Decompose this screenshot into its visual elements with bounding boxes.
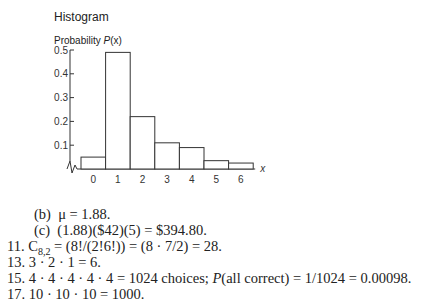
y-tick-label: 0.1 xyxy=(54,140,68,151)
answer-13-text: 3 · 2 · 1 = 6. xyxy=(29,254,101,270)
histogram-chart: 0.10.20.30.40.50123456x xyxy=(0,0,422,200)
y-tick-label: 0.4 xyxy=(54,68,68,79)
answer-c: (c) (1.88)($42)(5) = $394.80. xyxy=(34,222,207,239)
axis-break-icon xyxy=(67,161,77,173)
x-tick-label: 2 xyxy=(140,174,146,185)
x-tick-label: 5 xyxy=(214,174,220,185)
histogram-bar xyxy=(106,52,131,169)
answer-15-text-b: (all correct) = 1/1024 = 0.00098. xyxy=(221,270,411,286)
answer-15-num: 15. xyxy=(7,270,25,286)
answer-17-text: 10 · 10 · 10 = 1000. xyxy=(29,286,145,302)
answer-11-text: = (8!/(2!6!)) = (8 · 7/2) = 28. xyxy=(50,238,222,254)
answer-15: 15. 4 · 4 · 4 · 4 · 4 = 1024 choices; P(… xyxy=(7,270,411,287)
histogram-bar xyxy=(179,148,204,169)
x-tick-label: 0 xyxy=(91,174,97,185)
histogram-bar xyxy=(81,157,106,169)
histogram-bar xyxy=(130,117,155,169)
answer-b-text: μ = 1.88. xyxy=(58,206,110,222)
answer-15-text-a: 4 · 4 · 4 · 4 · 4 = 1024 choices; xyxy=(29,270,213,286)
histogram-bar xyxy=(204,161,229,169)
answer-b: (b) μ = 1.88. xyxy=(34,206,110,223)
histogram-bar xyxy=(155,143,180,169)
y-tick-label: 0.5 xyxy=(54,45,68,56)
x-tick-label: 1 xyxy=(115,174,121,185)
answer-17-num: 17. xyxy=(7,286,25,302)
y-tick-label: 0.2 xyxy=(54,116,68,127)
x-axis-label: x xyxy=(259,163,266,174)
answer-13: 13. 3 · 2 · 1 = 6. xyxy=(7,254,101,271)
answer-13-num: 13. xyxy=(7,254,25,270)
y-tick-label: 0.3 xyxy=(54,92,68,103)
histogram-bar xyxy=(229,163,254,169)
answer-b-label: (b) xyxy=(34,206,51,222)
x-tick-label: 3 xyxy=(164,174,170,185)
x-tick-label: 6 xyxy=(238,174,244,185)
answer-11-num: 11. xyxy=(7,238,25,254)
answer-17: 17. 10 · 10 · 10 = 1000. xyxy=(7,286,144,303)
x-tick-label: 4 xyxy=(189,174,195,185)
answer-c-label: (c) xyxy=(34,222,50,238)
answer-c-text: (1.88)($42)(5) = $394.80. xyxy=(57,222,207,238)
answer-11-c: C xyxy=(28,238,38,254)
